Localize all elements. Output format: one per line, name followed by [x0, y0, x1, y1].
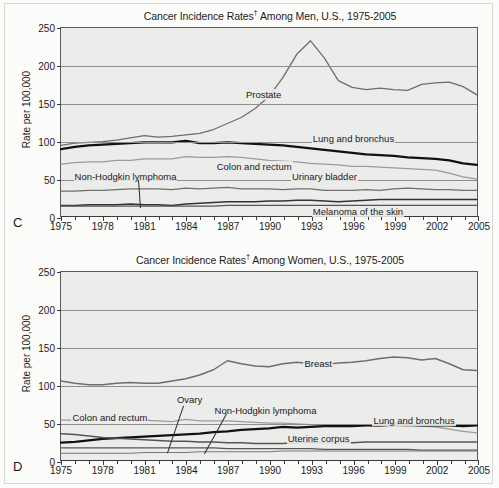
x-tick-label-1990: 1990 — [259, 465, 281, 476]
x-tick-label-1987: 1987 — [217, 465, 239, 476]
panel-c: Cancer Incidence Rates† Among Men, U.S.,… — [0, 0, 499, 244]
y-tick-mark-100 — [57, 142, 61, 143]
series-label-breast: Breast — [303, 358, 332, 369]
x-tick-label-2005: 2005 — [468, 465, 490, 476]
y-tick-label-150: 150 — [38, 343, 55, 354]
x-tick-1992 — [298, 216, 299, 220]
panel-d: Cancer Incidence Rates† Among Women, U.S… — [0, 244, 499, 488]
x-tick-1991 — [284, 216, 285, 220]
y-axis-label-c: Rate per 100,000 — [21, 40, 32, 180]
chart-title-c-rest: Among Men, U.S., 1975-2005 — [258, 10, 397, 22]
y-tick-label-200: 200 — [38, 61, 55, 72]
x-tick-label-2002: 2002 — [426, 221, 448, 232]
y-tick-label-50: 50 — [44, 175, 55, 186]
x-tick-label-1993: 1993 — [301, 465, 323, 476]
x-tick-label-1999: 1999 — [384, 221, 406, 232]
x-tick-2003 — [451, 460, 452, 464]
gridline-150 — [61, 348, 477, 349]
x-tick-label-1978: 1978 — [92, 221, 114, 232]
series-label-non-hodgkin-lymphoma: Non-Hodgkin lymphoma — [74, 171, 178, 182]
plot-area-c: 0501001502002501975197819811984198719901… — [60, 27, 478, 217]
y-tick-mark-100 — [57, 386, 61, 387]
gridline-150 — [61, 104, 477, 105]
y-tick-mark-150 — [57, 348, 61, 349]
x-tick-1980 — [131, 216, 132, 220]
figure-root: Cancer Incidence Rates† Among Men, U.S.,… — [0, 0, 499, 488]
x-tick-1986 — [214, 216, 215, 220]
x-tick-label-1996: 1996 — [342, 221, 364, 232]
series-line-non-hodgkin-lymphoma — [61, 451, 477, 453]
x-tick-1977 — [89, 216, 90, 220]
x-tick-1991 — [284, 460, 285, 464]
x-tick-label-1981: 1981 — [133, 465, 155, 476]
x-tick-2004 — [465, 216, 466, 220]
series-label-lung-and-bronchus: Lung and bronchus — [372, 415, 455, 426]
x-tick-1982 — [159, 216, 160, 220]
x-tick-1977 — [89, 460, 90, 464]
y-tick-label-50: 50 — [44, 419, 55, 430]
x-tick-1983 — [172, 460, 173, 464]
x-tick-1976 — [75, 216, 76, 220]
y-tick-label-150: 150 — [38, 99, 55, 110]
x-tick-1992 — [298, 460, 299, 464]
x-tick-label-1975: 1975 — [50, 465, 72, 476]
x-tick-label-2002: 2002 — [426, 465, 448, 476]
y-tick-mark-200 — [57, 310, 61, 311]
x-tick-2004 — [465, 460, 466, 464]
x-tick-label-1990: 1990 — [259, 221, 281, 232]
x-tick-1995 — [340, 460, 341, 464]
series-line-breast — [61, 357, 477, 385]
x-tick-1988 — [242, 460, 243, 464]
series-label-urinary-bladder: Urinary bladder — [291, 171, 358, 182]
gridline-100 — [61, 386, 477, 387]
series-label-ovary: Ovary — [176, 394, 203, 405]
series-line-ovary — [61, 448, 477, 450]
x-tick-1997 — [368, 460, 369, 464]
x-tick-label-1981: 1981 — [133, 221, 155, 232]
y-tick-mark-50 — [57, 180, 61, 181]
gridline-200 — [61, 310, 477, 311]
y-tick-mark-150 — [57, 104, 61, 105]
x-tick-1986 — [214, 460, 215, 464]
x-tick-1979 — [117, 460, 118, 464]
plot-area-d: 0501001502002501975197819811984198719901… — [60, 271, 478, 461]
y-tick-label-200: 200 — [38, 305, 55, 316]
y-tick-label-100: 100 — [38, 137, 55, 148]
x-tick-1988 — [242, 216, 243, 220]
y-tick-mark-250 — [57, 272, 61, 273]
x-tick-2003 — [451, 216, 452, 220]
x-tick-2001 — [423, 460, 424, 464]
x-tick-label-1978: 1978 — [92, 465, 114, 476]
series-label-non-hodgkin-lymphoma: Non-Hodgkin lymphoma — [214, 405, 318, 416]
series-line-lung-and-bronchus — [61, 425, 477, 443]
x-tick-label-1975: 1975 — [50, 221, 72, 232]
x-tick-1989 — [256, 216, 257, 220]
y-tick-mark-200 — [57, 66, 61, 67]
x-tick-1983 — [172, 216, 173, 220]
x-tick-2000 — [409, 216, 410, 220]
y-tick-mark-50 — [57, 424, 61, 425]
series-label-uterine-corpus: Uterine corpus — [287, 433, 351, 444]
x-tick-2000 — [409, 460, 410, 464]
gridline-200 — [61, 66, 477, 67]
series-line-non-hodgkin-lymphoma — [61, 205, 477, 206]
x-tick-1980 — [131, 460, 132, 464]
chart-title-d-rest: Among Women, U.S., 1975-2005 — [250, 254, 404, 266]
x-tick-2001 — [423, 216, 424, 220]
x-tick-1994 — [326, 460, 327, 464]
series-line-uterine-corpus — [61, 434, 477, 444]
x-tick-label-1999: 1999 — [384, 465, 406, 476]
x-tick-1979 — [117, 216, 118, 220]
x-tick-1998 — [381, 460, 382, 464]
series-label-colon-and-rectum: Colon and rectum — [71, 412, 148, 423]
x-tick-1976 — [75, 460, 76, 464]
x-tick-label-1996: 1996 — [342, 465, 364, 476]
x-tick-label-1987: 1987 — [217, 221, 239, 232]
series-layer-c — [61, 28, 477, 216]
series-line-melanoma-of-the-skin — [61, 199, 477, 205]
series-layer-d — [61, 272, 477, 460]
series-label-colon-and-rectum: Colon and rectum — [216, 161, 293, 172]
panel-label-c: C — [13, 215, 22, 230]
y-tick-label-250: 250 — [38, 23, 55, 34]
chart-title-d: Cancer Incidence Rates† Among Women, U.S… — [60, 252, 480, 266]
